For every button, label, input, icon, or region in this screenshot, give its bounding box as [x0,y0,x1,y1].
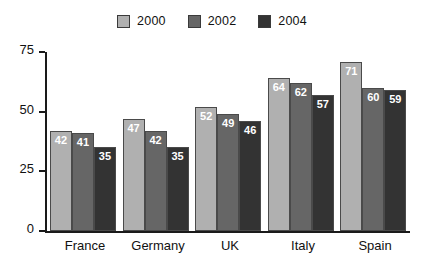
bar-spain-2004[interactable]: 59 [384,90,406,231]
bar-value-label: 35 [168,151,188,162]
bar-value-label: 64 [269,82,289,93]
y-axis-tick-label: 25 [20,161,34,176]
category-label-uk: UK [221,238,239,253]
bar-chart: 200020022004 0255075 4241354742355249466… [0,0,424,276]
chart-legend: 200020022004 [0,14,424,28]
legend-item-2004[interactable]: 2004 [258,14,307,28]
bar-value-label: 47 [124,123,144,134]
bar-value-label: 42 [51,135,71,146]
y-axis-tick: 75 [39,51,45,53]
y-axis-tick: 25 [39,170,45,172]
bar-group-italy: 646257 [268,52,334,231]
y-axis-tick-label: 0 [27,221,34,236]
bar-uk-2004[interactable]: 46 [239,121,261,231]
legend-swatch-icon [117,15,130,28]
category-label-spain: Spain [358,238,391,253]
bar-italy-2004[interactable]: 57 [312,95,334,231]
bar-germany-2000[interactable]: 47 [123,119,145,231]
bar-value-label: 46 [240,125,260,136]
bar-france-2002[interactable]: 41 [72,133,94,231]
y-axis-tick: 50 [39,111,45,113]
bar-france-2000[interactable]: 42 [50,131,72,231]
bar-value-label: 49 [218,118,238,129]
bar-spain-2000[interactable]: 71 [340,62,362,231]
bar-value-label: 60 [363,92,383,103]
bar-value-label: 59 [385,94,405,105]
bar-uk-2000[interactable]: 52 [195,107,217,231]
bar-value-label: 41 [73,137,93,148]
x-axis-category-labels: FranceGermanyUKItalySpain [47,238,410,258]
bar-group-spain: 716059 [340,52,406,231]
bar-italy-2002[interactable]: 62 [290,83,312,231]
category-label-italy: Italy [291,238,315,253]
y-axis-tick: 0 [39,230,45,232]
legend-item-2000[interactable]: 2000 [117,14,166,28]
plot-area: 0255075 424135474235524946646257716059 [45,52,410,231]
bar-group-uk: 524946 [195,52,261,231]
y-axis-tick-label: 50 [20,102,34,117]
bar-group-germany: 474235 [123,52,189,231]
bar-spain-2002[interactable]: 60 [362,88,384,231]
legend-item-label: 2004 [278,14,307,28]
bar-value-label: 57 [313,99,333,110]
bar-value-label: 62 [291,87,311,98]
bar-france-2004[interactable]: 35 [94,147,116,231]
legend-item-label: 2000 [137,14,166,28]
bar-value-label: 35 [95,151,115,162]
bar-group-france: 424135 [50,52,116,231]
legend-swatch-icon [188,15,201,28]
bar-italy-2000[interactable]: 64 [268,78,290,231]
x-axis-line [45,231,410,233]
legend-swatch-icon [258,15,271,28]
bar-value-label: 71 [341,66,361,77]
y-axis-tick-label: 75 [20,42,34,57]
category-label-france: France [65,238,105,253]
category-label-germany: Germany [131,238,184,253]
bar-value-label: 42 [146,135,166,146]
legend-item-label: 2002 [208,14,237,28]
legend-item-2002[interactable]: 2002 [188,14,237,28]
bar-germany-2004[interactable]: 35 [167,147,189,231]
bar-uk-2002[interactable]: 49 [217,114,239,231]
bars-layer: 424135474235524946646257716059 [47,52,410,231]
bar-germany-2002[interactable]: 42 [145,131,167,231]
bar-value-label: 52 [196,111,216,122]
